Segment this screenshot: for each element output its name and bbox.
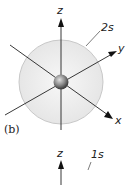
2s-leader-line <box>86 31 100 46</box>
z-axis-label: z <box>56 4 63 17</box>
orbital-diagram: z 2s y x (b) z 1s <box>0 0 138 185</box>
y-arrow-icon <box>108 51 117 57</box>
1s-leader-line <box>88 162 91 170</box>
1s-label: 1s <box>91 148 104 161</box>
z-arrow-icon <box>58 18 64 27</box>
2s-label: 2s <box>101 21 114 34</box>
1s-z-axis-label: z <box>56 147 63 160</box>
y-axis-label: y <box>117 42 125 55</box>
nucleus <box>54 75 69 90</box>
1s-z-arrow-icon <box>58 160 64 169</box>
x-arrow-icon <box>104 111 113 119</box>
x-axis-label: x <box>114 114 122 127</box>
panel-label: (b) <box>4 123 20 136</box>
